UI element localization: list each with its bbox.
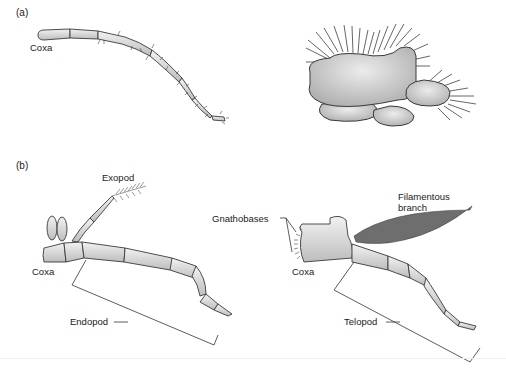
panel-b-exopod-setae	[112, 182, 146, 202]
panel-a-leg-spines	[98, 31, 229, 124]
gnathobases-label: Gnathobases	[212, 213, 269, 224]
left-coxa-label: Coxa	[32, 266, 54, 277]
panel-b-left-limb	[43, 196, 232, 316]
exopod-label: Exopod	[102, 172, 134, 183]
right-coxa-label: Coxa	[292, 266, 314, 277]
filamentous-branch-label-line2: branch	[398, 202, 427, 213]
telopod-label: Telopod	[344, 316, 377, 327]
panel-a-label: (a)	[16, 7, 28, 18]
bottom-divider	[0, 358, 506, 359]
panel-a-phyllopod-lobes	[309, 47, 450, 126]
filamentous-branch-label-line1: Filamentous	[398, 191, 450, 202]
panel-a-coxa-label: Coxa	[30, 42, 52, 53]
panel-a-walking-leg	[38, 29, 225, 121]
endopod-label: Endopod	[70, 316, 108, 327]
panel-b-label: (b)	[16, 160, 28, 171]
